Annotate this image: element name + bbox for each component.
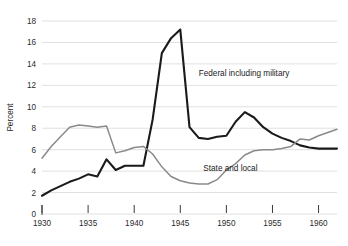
x-tick-labels: 1930193519401945195019551960 [33,219,328,228]
x-tick-label: 1930 [33,219,52,228]
series-annotations: Federal including militaryState and loca… [199,69,290,173]
y-axis-title: Percent [6,103,15,132]
x-tick-label: 1960 [309,219,328,228]
y-tick-label: 14 [27,60,37,69]
x-tick-label: 1945 [171,219,190,228]
x-tick-label: 1955 [263,219,282,228]
x-tick-label: 1940 [125,219,144,228]
y-tick-label: 4 [31,167,36,176]
series-annotation-label: Federal including military [199,69,290,78]
y-tick-label: 18 [27,17,37,26]
y-tick-label: 2 [31,189,36,198]
y-tick-label: 12 [27,81,37,90]
line-chart: 024681012141618 193019351940194519501955… [0,0,348,246]
y-tick-label: 0 [31,210,36,219]
x-tick-label: 1950 [217,219,236,228]
y-tick-label: 6 [31,146,36,155]
y-tick-label: 16 [27,38,37,47]
series-annotation-label: State and local [203,164,257,173]
y-tick-label: 8 [31,124,36,133]
y-tick-labels: 024681012141618 [27,17,37,219]
chart-container: 024681012141618 193019351940194519501955… [0,0,348,246]
y-tick-label: 10 [27,103,37,112]
x-tick-label: 1935 [79,219,98,228]
x-tick-marks [42,205,319,213]
